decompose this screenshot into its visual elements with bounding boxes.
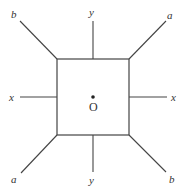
square-axes-diagram: b y a x x a y b O (0, 0, 186, 194)
label-x-right: x (170, 91, 176, 103)
label-y-top: y (88, 6, 94, 18)
line-a-top-right (129, 21, 166, 59)
line-b-top-left (20, 21, 57, 59)
center-point (91, 95, 95, 99)
label-center-o: O (89, 100, 98, 114)
line-a-bottom-left (21, 135, 57, 173)
diagram-canvas: b y a x x a y b O (0, 0, 186, 194)
label-a-bottom-left: a (11, 173, 17, 185)
line-b-bottom-right (129, 135, 166, 172)
label-a-top-right: a (167, 9, 173, 21)
label-y-bottom: y (88, 174, 94, 186)
label-b-top-left: b (11, 8, 17, 20)
label-x-left: x (8, 91, 14, 103)
label-b-bottom-right: b (169, 173, 175, 185)
